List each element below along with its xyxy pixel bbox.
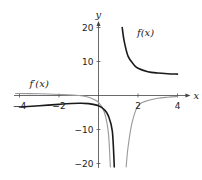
curves (16, 28, 178, 167)
axes (14, 21, 190, 168)
y-tick-label: −20 (75, 159, 94, 169)
f-curve-branch-1 (20, 103, 115, 167)
x-tick-label: −4 (13, 101, 27, 111)
y-tick-label: 20 (82, 23, 94, 33)
labels: xy−4−224−20−101020f(x)f′(x) (13, 9, 200, 168)
x-tick-label: 2 (135, 101, 141, 111)
x-axis-label: x (193, 90, 199, 101)
y-axis-arrow (97, 21, 101, 26)
f-prime-curve-branch-2 (126, 97, 177, 167)
x-axis-arrow (185, 94, 190, 98)
chart: xy−4−224−20−101020f(x)f′(x) (0, 0, 202, 180)
y-tick-label: −10 (75, 125, 94, 135)
f-label: f(x) (136, 27, 154, 38)
x-tick-label: −2 (52, 101, 65, 111)
y-tick-label: 10 (82, 57, 94, 67)
f-prime-label: f′(x) (28, 78, 49, 89)
y-axis-label: y (95, 9, 102, 20)
x-tick-label: 4 (175, 101, 181, 111)
